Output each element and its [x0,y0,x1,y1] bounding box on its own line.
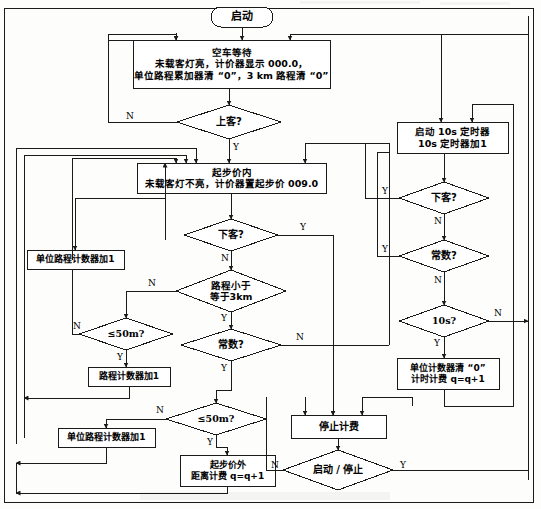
label-const-mid-yes: Y [221,363,227,373]
label-le50m-upper-no: N [73,321,81,331]
node-unit-dist-counter-lower [58,428,155,447]
edge-le50m-lower-no [106,419,166,428]
node-alight-mid [184,219,278,251]
label-le50m-lower-yes: Y [207,437,213,447]
edge-alight-mid-yes [278,235,333,415]
label-startstop-yes: Y [400,460,406,470]
label-le50m-lower-no: N [156,405,164,415]
node-ten-s [399,305,489,337]
node-board-question [177,105,281,139]
edge-distcounter-return [24,386,129,398]
node-alight-right [399,182,489,214]
node-stop-billing [291,415,386,438]
node-start [211,7,273,27]
label-le50m-upper-yes: Y [117,352,123,362]
edge-right-rail-to-basefare [305,143,389,163]
node-unit-counter-clear [397,358,499,389]
node-start-stop [283,450,393,490]
node-const-right [399,240,489,272]
node-distance-le-3km [176,270,286,312]
label-board-yes: Y [233,142,239,152]
node-dist-counter [88,367,170,386]
node-idle-wait [133,40,330,88]
edge-unitcounter-lower-return [16,447,106,463]
label-startstop-no: N [271,460,279,470]
edge-unitcounter-upper-feed [75,198,165,240]
edge-stop-feed-right [362,397,412,406]
label-alight-right-yes: Y [382,186,388,196]
label-alight-mid-no: N [221,253,229,263]
edge-overbase-return [16,486,227,493]
flowchart-page: 启动 空车等待 未载客灯亮，计价器显示 000.0， 单位路程累加器清 “0”，… [0,0,541,509]
label-const-right-no: N [434,275,442,285]
edge-rail-r2-to-basefare [24,155,186,438]
flowchart-canvas [0,0,541,509]
label-const-right-yes: Y [382,244,388,254]
label-alight-mid-yes: Y [300,222,306,232]
label-board-no: N [126,111,134,121]
label-const-mid-no: N [296,332,304,342]
node-timer-10s [397,122,508,153]
node-unit-dist-counter-upper [27,250,124,269]
label-ten-s-yes: Y [434,338,440,348]
node-le50m-lower [166,403,266,435]
edge-const-right-yes [377,152,399,256]
label-ten-s-no: N [494,308,502,318]
label-dist3km-yes: Y [221,313,227,323]
label-alight-right-no: N [434,216,442,226]
edge-dist3km-no [126,291,176,318]
node-le50m-upper [79,318,173,350]
edge-le50m-lower-yes [216,435,227,455]
label-dist3km-no: N [148,278,156,288]
edge-right-rail-to-idle [290,16,528,40]
node-const-mid [181,329,281,361]
node-over-base-fare [180,455,275,486]
